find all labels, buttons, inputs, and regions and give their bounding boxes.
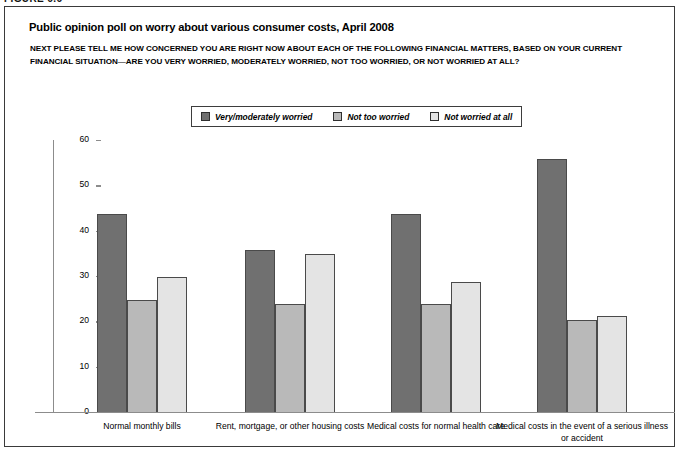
bar-group — [245, 140, 335, 413]
legend-label: Not too worried — [347, 112, 409, 122]
bar[interactable] — [245, 250, 275, 413]
legend-swatch-icon — [430, 112, 439, 121]
bar[interactable] — [567, 320, 597, 413]
bar-group — [391, 140, 481, 413]
chart-legend: Very/moderately worriedNot too worriedNo… — [191, 106, 522, 127]
x-axis-line — [35, 412, 675, 413]
x-axis-category-label: Medical costs in the event of a serious … — [492, 421, 672, 444]
bar[interactable] — [537, 159, 567, 413]
legend-item-0[interactable]: Very/moderately worried — [201, 112, 312, 122]
legend-swatch-icon — [333, 112, 342, 121]
legend-swatch-icon — [201, 112, 210, 121]
chart-title: Public opinion poll on worry about vario… — [29, 21, 394, 33]
bar[interactable] — [451, 282, 481, 413]
legend-item-1[interactable]: Not too worried — [333, 112, 409, 122]
bar[interactable] — [97, 214, 127, 413]
legend-item-2[interactable]: Not worried at all — [430, 112, 512, 122]
figure-label: FIGURE 6.6 — [4, 0, 62, 4]
bar[interactable] — [391, 214, 421, 413]
plot-bars — [53, 140, 675, 413]
bar[interactable] — [157, 277, 187, 413]
bar[interactable] — [127, 300, 157, 413]
chart-subtitle: NEXT PLEASE TELL ME HOW CONCERNED YOU AR… — [30, 43, 660, 68]
bar[interactable] — [275, 304, 305, 413]
bar[interactable] — [597, 316, 627, 413]
bar[interactable] — [421, 304, 451, 413]
figure-container: Public opinion poll on worry about vario… — [4, 6, 675, 447]
bar[interactable] — [305, 254, 335, 413]
legend-label: Very/moderately worried — [215, 112, 312, 122]
legend-label: Not worried at all — [444, 112, 512, 122]
bar-group — [97, 140, 187, 413]
bar-group — [537, 140, 627, 413]
